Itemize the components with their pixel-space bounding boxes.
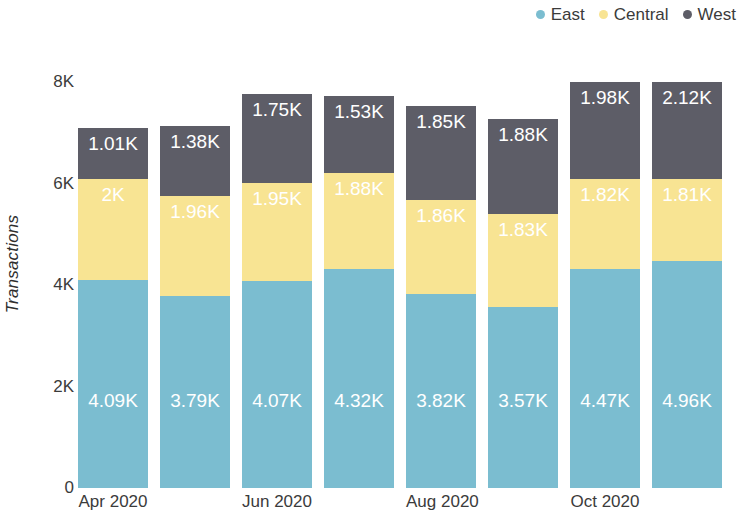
bar-segment-central[interactable]: 1.96K [160,196,230,295]
y-tick-label: 4K [53,275,74,295]
bar-segment-value-label: 1.75K [242,100,312,119]
x-tick-label: Aug 2020 [406,492,476,512]
bar-segment-east[interactable]: 4.07K [242,281,312,488]
bar-segment-value-label: 4.09K [78,391,148,410]
bar-segment-east[interactable]: 4.32K [324,269,394,488]
bar-segment-value-label: 1.53K [324,102,394,121]
x-tick-label: Jun 2020 [242,492,312,512]
bar-segment-value-label: 3.82K [406,391,476,410]
bar-segment-east[interactable]: 3.57K [488,307,558,488]
bar-segment-value-label: 1.01K [78,134,148,153]
bar-segment-east[interactable]: 3.79K [160,296,230,488]
bar-aug-2020[interactable]: 1.85K1.86K3.82K [406,82,476,488]
bar-segment-central[interactable]: 1.81K [652,179,722,262]
bar-segment-value-label: 4.32K [324,391,394,410]
bar-segment-value-label: 1.81K [652,185,722,204]
bar-segment-west[interactable]: 1.85K [406,106,476,200]
bar-segment-west[interactable]: 2.12K [652,82,722,179]
bar-segment-value-label: 1.85K [406,112,476,131]
bar-segment-value-label: 1.88K [324,179,394,198]
bar-segment-west[interactable]: 1.01K [78,128,148,179]
y-axis-title: Transactions [0,0,30,527]
bar-segment-value-label: 4.96K [652,391,722,410]
y-axis-ticks: 02K4K6K8K [30,0,74,527]
bar-segment-value-label: 1.86K [406,206,476,225]
bar-segment-central[interactable]: 1.88K [324,173,394,268]
bar-jul-2020[interactable]: 1.53K1.88K4.32K [324,82,394,488]
bar-segment-value-label: 1.38K [160,132,230,151]
bar-segment-central[interactable]: 1.95K [242,183,312,282]
bar-sep-2020[interactable]: 1.88K1.83K3.57K [488,82,558,488]
bar-segment-value-label: 2.12K [652,88,722,107]
x-tick-label: Apr 2020 [78,492,148,512]
bar-segment-value-label: 3.57K [488,391,558,410]
bar-segment-east[interactable]: 3.82K [406,294,476,488]
bar-apr-2020[interactable]: 1.01K2K4.09K [78,82,148,488]
bar-segment-west[interactable]: 1.88K [488,119,558,214]
y-tick-label: 6K [53,174,74,194]
bar-segment-central[interactable]: 1.82K [570,179,640,268]
x-axis-ticks: Apr 2020Jun 2020Aug 2020Oct 2020 [78,492,744,527]
bar-segment-value-label: 3.79K [160,391,230,410]
x-tick-label: Oct 2020 [570,492,640,512]
bar-segment-value-label: 1.95K [242,189,312,208]
bar-segment-value-label: 1.98K [570,88,640,107]
bar-may-2020[interactable]: 1.38K1.96K3.79K [160,82,230,488]
bar-oct-2020[interactable]: 1.98K1.82K4.47K [570,82,640,488]
bar-segment-value-label: 4.47K [570,391,640,410]
bar-segment-east[interactable]: 4.96K [652,261,722,488]
bar-nov-2020[interactable]: 2.12K1.81K4.96K [652,82,722,488]
bar-segment-value-label: 2K [78,185,148,204]
bar-segment-west[interactable]: 1.75K [242,94,312,183]
bar-segment-value-label: 1.82K [570,185,640,204]
y-axis-title-text: Transactions [3,214,23,312]
bar-segment-west[interactable]: 1.38K [160,126,230,196]
bar-segment-value-label: 1.88K [488,125,558,144]
y-tick-label: 0 [65,478,74,498]
y-tick-label: 2K [53,377,74,397]
bar-segment-west[interactable]: 1.98K [570,82,640,179]
stacked-bar-chart: EastCentralWest Transactions 02K4K6K8K 1… [0,0,744,527]
bar-segment-east[interactable]: 4.47K [570,269,640,488]
bar-segment-value-label: 4.07K [242,391,312,410]
bar-segment-value-label: 1.96K [160,202,230,221]
bar-jun-2020[interactable]: 1.75K1.95K4.07K [242,82,312,488]
y-tick-label: 8K [53,72,74,92]
bar-segment-west[interactable]: 1.53K [324,96,394,174]
plot-area: 1.01K2K4.09K1.38K1.96K3.79K1.75K1.95K4.0… [78,0,744,527]
bar-segment-value-label: 1.83K [488,220,558,239]
bar-segment-central[interactable]: 1.83K [488,214,558,307]
bar-segment-east[interactable]: 4.09K [78,280,148,488]
bar-segment-central[interactable]: 1.86K [406,200,476,294]
bar-segment-central[interactable]: 2K [78,179,148,281]
